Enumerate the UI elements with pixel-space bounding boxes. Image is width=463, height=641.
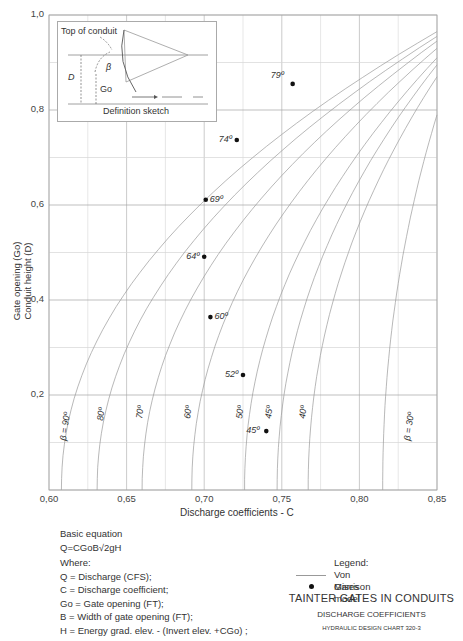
- x-tick-label: 0,60: [29, 493, 69, 504]
- curve-label-3: 60º: [182, 405, 194, 420]
- garrison-point-label: 52º: [225, 369, 238, 379]
- y-tick-label: 0,8: [14, 103, 44, 114]
- equation-def-h: H = Energy grad. elev. - (Invert elev. +…: [60, 624, 248, 638]
- equation-heading: Basic equation: [60, 527, 248, 541]
- y-label-line-2: Conduit height (D): [22, 221, 33, 341]
- y-axis-label: Gate opening (Go) Conduit height (D): [11, 221, 33, 341]
- legend-entry-von-mises: Von Mises: [296, 569, 368, 581]
- chart-title: TAINTER GATES IN CONDUITS: [280, 592, 463, 604]
- curve-label-4: 50º: [234, 405, 246, 420]
- curve-label-6: 40º: [297, 405, 309, 420]
- curve-label-5: 45º: [263, 405, 275, 420]
- y-tick-label: 0,6: [14, 198, 44, 209]
- line-swatch-icon: [296, 575, 326, 576]
- chart-subtitle: DISCHARGE COEFFICIENTS: [280, 610, 463, 619]
- garrison-point-label: 64º: [186, 251, 199, 261]
- equation-def-c: C = Discharge coefficient;: [60, 583, 248, 597]
- sketch-beta-label: β: [106, 62, 111, 72]
- sketch-d-label: D: [68, 72, 75, 82]
- x-tick-label: 0,65: [107, 493, 147, 504]
- sketch-caption: Definition sketch: [103, 106, 169, 116]
- equation-where: Where:: [60, 556, 248, 570]
- garrison-point-label: 45º: [246, 425, 259, 435]
- garrison-point-label: 74º: [219, 134, 232, 144]
- sketch-top-of-conduit-label: Top of conduit: [61, 26, 117, 36]
- dot-marker-icon: [309, 584, 314, 589]
- curve-label-1: 80º: [95, 407, 107, 422]
- x-tick-label: 0,80: [339, 493, 379, 504]
- y-tick-label: 1,0: [14, 8, 44, 19]
- garrison-point-label: 60º: [214, 311, 227, 321]
- legend-title: Legend:: [334, 557, 368, 569]
- equation-formula: Q=CGoB√2gH: [60, 541, 248, 555]
- y-tick-label: 0,2: [14, 388, 44, 399]
- legend: Legend: Von Mises Garrison model: [296, 557, 368, 593]
- x-tick-label: 0,70: [184, 493, 224, 504]
- definition-sketch: Top of conduit D β Go Definition sketch: [57, 21, 217, 122]
- equation-def-q: Q = Discharge (CFS);: [60, 570, 248, 584]
- chart-title-block: TAINTER GATES IN CONDUITS DISCHARGE COEF…: [280, 592, 463, 631]
- equation-block: Basic equation Q=CGoB√2gH Where: Q = Dis…: [60, 527, 248, 637]
- sketch-go-label: Go: [100, 84, 112, 94]
- x-tick-label: 0,85: [417, 493, 457, 504]
- garrison-point-label: 69º: [210, 194, 223, 204]
- chart-id: HYDRAULIC DESIGN CHART 320-3: [280, 625, 463, 631]
- garrison-point-label: 79º: [271, 70, 284, 80]
- x-axis-label: Discharge coefficients - C: [180, 507, 294, 518]
- curve-label-2: 70º: [134, 405, 146, 420]
- equation-def-go: Go = Gate opening (FT);: [60, 597, 248, 611]
- equation-def-b: B = Width of gate opening (FT);: [60, 610, 248, 624]
- y-label-line-1: Gate opening (Go): [11, 221, 22, 341]
- x-tick-label: 0,75: [262, 493, 302, 504]
